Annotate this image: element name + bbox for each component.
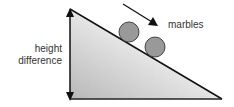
height-difference-label: height difference bbox=[0, 43, 62, 67]
direction-arrow-head bbox=[148, 17, 158, 26]
height-label-line1: height bbox=[0, 43, 62, 55]
marbles-label: marbles bbox=[168, 19, 204, 31]
direction-arrow bbox=[123, 4, 152, 22]
marble-2 bbox=[145, 37, 165, 57]
height-label-line2: difference bbox=[0, 55, 62, 67]
marble-1 bbox=[119, 22, 139, 42]
